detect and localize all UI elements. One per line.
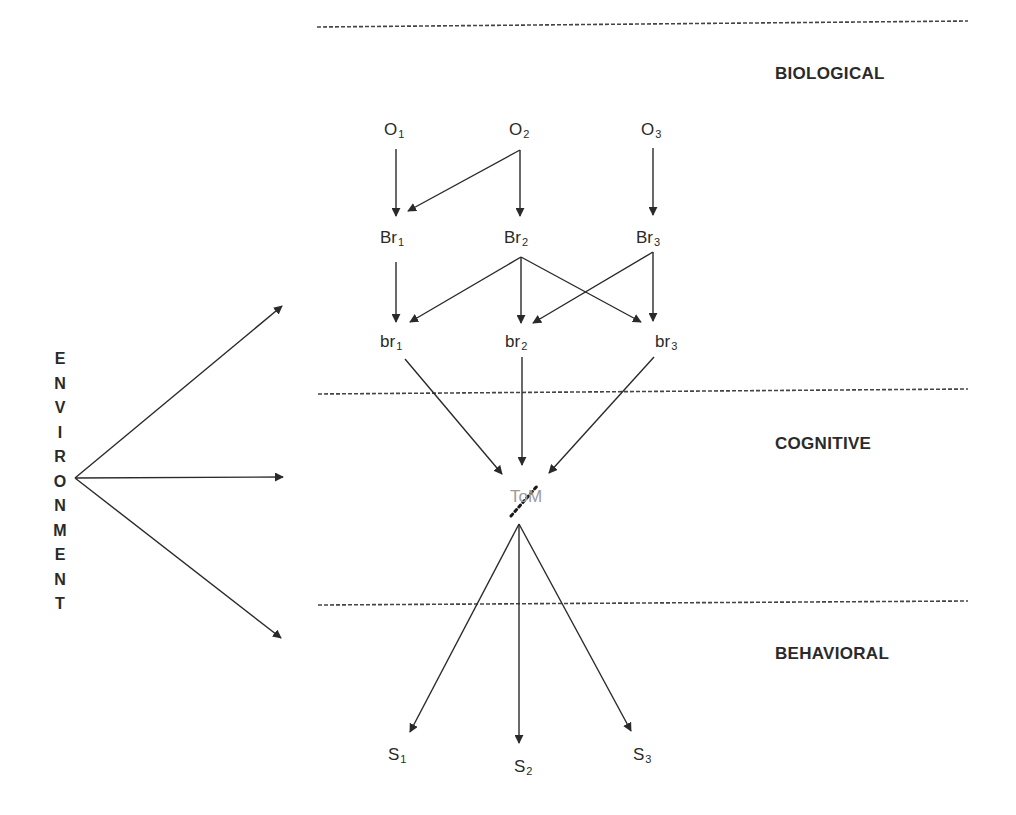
environment-letter: V	[50, 396, 70, 421]
node-s2: S2	[514, 757, 532, 777]
environment-label: E N V I R O N M E N T	[50, 347, 70, 617]
node-br2-lower: br2	[505, 332, 527, 352]
node-o2: O2	[509, 120, 529, 140]
environment-letter: T	[50, 592, 70, 617]
level-label-cognitive: COGNITIVE	[775, 434, 871, 454]
node-subscript: 3	[655, 128, 661, 140]
node-subscript: 3	[654, 236, 660, 248]
environment-letter: N	[50, 372, 70, 397]
node-s3: S3	[633, 745, 651, 765]
node-subscript: 2	[526, 765, 532, 777]
environment-letter: N	[50, 494, 70, 519]
node-base: Br	[636, 228, 653, 247]
node-base: Br	[380, 228, 397, 247]
environment-letter: N	[50, 568, 70, 593]
environment-letter: R	[50, 445, 70, 470]
edge-br2-lower-br1	[410, 257, 521, 322]
edge-tom-s1	[410, 524, 519, 732]
edge-tom-s3	[519, 524, 631, 731]
node-tom: ToM	[510, 487, 542, 507]
node-subscript: 1	[396, 340, 402, 352]
node-br1-upper: Br1	[380, 228, 404, 248]
environment-letter: E	[50, 347, 70, 372]
node-br1-lower: br1	[380, 332, 402, 352]
node-subscript: 1	[400, 753, 406, 765]
edge-environment-biological	[75, 306, 282, 478]
node-base: O	[641, 120, 654, 139]
node-base: br	[505, 332, 520, 351]
node-subscript: 3	[671, 340, 677, 352]
environment-letter: E	[50, 543, 70, 568]
divider-biological-cognitive	[318, 389, 968, 394]
node-base: br	[655, 332, 670, 351]
edge-lower-br1-tom	[405, 359, 502, 474]
edge-lower-br3-tom	[549, 357, 654, 473]
node-base: S	[633, 745, 644, 764]
node-br3-upper: Br3	[636, 228, 660, 248]
node-subscript: 2	[523, 128, 529, 140]
node-subscript: 2	[521, 340, 527, 352]
divider-top	[317, 21, 968, 27]
edge-br3-lower-br2	[533, 252, 653, 323]
node-o1: O1	[384, 120, 404, 140]
node-br2-upper: Br2	[504, 228, 528, 248]
edge-br2-lower-br3	[521, 257, 641, 322]
diagram-canvas	[0, 0, 1016, 815]
node-subscript: 1	[398, 128, 404, 140]
level-label-biological: BIOLOGICAL	[775, 64, 885, 84]
node-base: O	[384, 120, 397, 139]
node-subscript: 3	[645, 753, 651, 765]
environment-letter: M	[50, 519, 70, 544]
node-subscript: 2	[522, 236, 528, 248]
node-base: O	[509, 120, 522, 139]
node-base: Br	[504, 228, 521, 247]
node-base: br	[380, 332, 395, 351]
node-base: S	[514, 757, 525, 776]
divider-cognitive-behavioral	[318, 601, 968, 605]
edge-o2-br1	[408, 150, 520, 211]
environment-letter: O	[50, 470, 70, 495]
edge-environment-behavioral	[75, 478, 281, 638]
level-label-behavioral: BEHAVIORAL	[775, 644, 889, 664]
node-br3-lower: br3	[655, 332, 677, 352]
node-s1: S1	[388, 745, 406, 765]
edge-environment-cognitive	[75, 477, 283, 478]
environment-letter: I	[50, 421, 70, 446]
node-o3: O3	[641, 120, 661, 140]
node-base: S	[388, 745, 399, 764]
node-subscript: 1	[398, 236, 404, 248]
